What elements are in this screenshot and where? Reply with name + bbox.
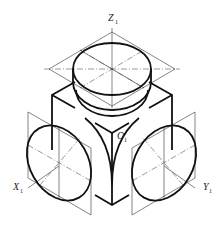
cube-inner-left: [52, 95, 75, 108]
y-axis-subscript: 1: [209, 188, 212, 194]
z-axis-label: Z: [108, 12, 114, 23]
cube-top-right-edge: [149, 82, 172, 150]
z-axis-subscript: 1: [115, 19, 118, 25]
top-face-construction: [44, 28, 180, 108]
right-cylinder-arc: [112, 118, 139, 185]
isometric-diagram: Z 1 O 1 X 1 Y 1: [0, 0, 223, 235]
cube-inner-right: [149, 95, 172, 108]
right-centerline-a: [132, 145, 195, 181]
cube-top-left-edge: [52, 82, 75, 150]
left-centerline-a: [28, 145, 91, 181]
origin-subscript: 1: [124, 137, 127, 143]
x-axis-subscript: 1: [20, 188, 23, 194]
left-centerline-b: [40, 138, 80, 185]
right-centerline-b: [143, 138, 183, 185]
left-cylinder-arc: [85, 118, 112, 185]
x-axis-label: X: [12, 181, 20, 192]
